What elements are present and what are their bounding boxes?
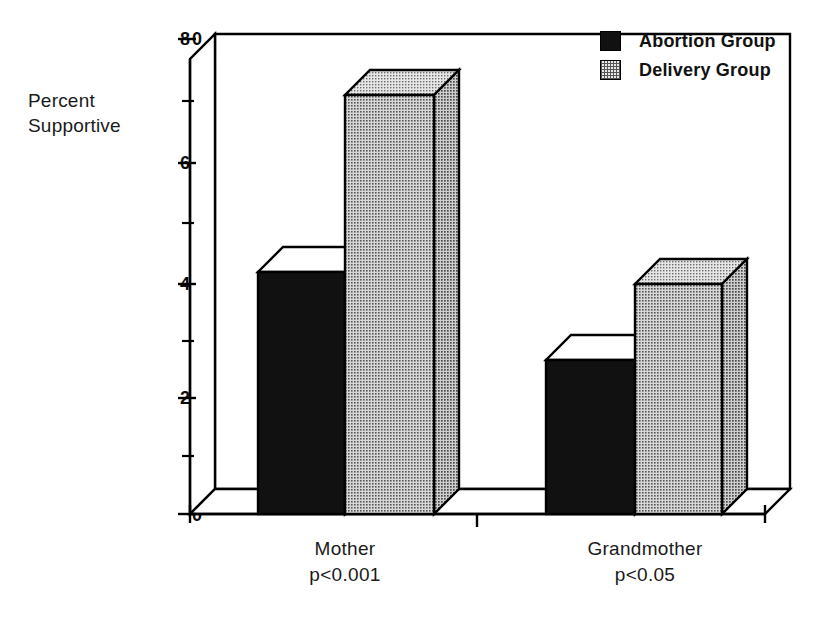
bar-mother-delivery-group: [345, 70, 459, 514]
legend-item-delivery-group[interactable]: Delivery Group: [600, 57, 800, 83]
legend-item-label: Delivery Group: [639, 60, 771, 81]
legend: Abortion Group Delivery Group: [600, 28, 800, 86]
legend-item-label: Abortion Group: [639, 31, 776, 52]
plot-area: [0, 0, 818, 618]
x-category-label-mother: Mother p<0.001: [255, 536, 435, 588]
legend-item-abortion-group[interactable]: Abortion Group: [600, 28, 800, 54]
x-category-label-grandmother: Grandmother p<0.05: [540, 536, 750, 588]
bar-grandmother-delivery-group: [635, 259, 747, 514]
black-square-icon: [600, 31, 621, 51]
dotted-square-icon: [600, 60, 621, 80]
bar-chart: Percent Supportive 80 60 40 20 0: [0, 0, 818, 618]
